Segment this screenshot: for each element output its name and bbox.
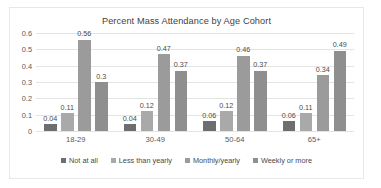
bar-slot: 0.37 bbox=[175, 33, 188, 131]
bar-slot: 0.06 bbox=[203, 33, 216, 131]
y-axis-tick-label: 0.1 bbox=[22, 110, 32, 119]
bar-slot: 0.04 bbox=[44, 33, 57, 131]
legend-item[interactable]: Monthly/yearly bbox=[185, 156, 240, 165]
bar[interactable] bbox=[283, 121, 296, 131]
y-axis-tick-label: 0.6 bbox=[22, 29, 32, 38]
bar-value-label: 0.12 bbox=[219, 101, 233, 110]
bar[interactable] bbox=[141, 111, 154, 131]
legend-swatch-icon bbox=[61, 158, 66, 163]
bar-value-label: 0.04 bbox=[123, 114, 137, 123]
bar[interactable] bbox=[44, 124, 57, 131]
y-axis-tick-label: 0.2 bbox=[22, 94, 32, 103]
bar-slot: 0.37 bbox=[254, 33, 267, 131]
bar[interactable] bbox=[124, 124, 137, 131]
bar-value-label: 0.56 bbox=[77, 29, 91, 38]
bar-slot: 0.47 bbox=[158, 33, 171, 131]
bar-value-label: 0.34 bbox=[316, 65, 330, 74]
x-axis-category-label: 50-64 bbox=[225, 135, 244, 144]
legend-label: Less than yearly bbox=[119, 156, 172, 165]
legend-swatch-icon bbox=[185, 158, 190, 163]
bar-group: 0.040.120.470.3730-49 bbox=[116, 33, 196, 131]
legend-label: Weekly or more bbox=[261, 156, 312, 165]
legend-label: Not at all bbox=[69, 156, 98, 165]
y-axis-tick-label: 0 bbox=[28, 127, 32, 136]
gridline bbox=[36, 131, 354, 132]
bar-value-label: 0.49 bbox=[333, 40, 347, 49]
bar-slot: 0.04 bbox=[124, 33, 137, 131]
legend-swatch-icon bbox=[111, 158, 116, 163]
chart-title: Percent Mass Attendance by Age Cohort bbox=[10, 16, 363, 26]
bar[interactable] bbox=[95, 82, 108, 131]
bar-value-label: 0.11 bbox=[299, 103, 312, 112]
bar-value-label: 0.12 bbox=[140, 101, 154, 110]
bar-value-label: 0.11 bbox=[61, 103, 74, 112]
x-axis-category-label: 30-49 bbox=[146, 135, 165, 144]
bar[interactable] bbox=[78, 40, 91, 131]
bar-slot: 0.11 bbox=[300, 33, 313, 131]
bar-value-label: 0.3 bbox=[96, 72, 106, 81]
bar[interactable] bbox=[300, 113, 313, 131]
x-axis-category-label: 65+ bbox=[308, 135, 321, 144]
x-axis-category-label: 18-29 bbox=[66, 135, 85, 144]
bar[interactable] bbox=[254, 71, 267, 131]
legend-item[interactable]: Less than yearly bbox=[111, 156, 172, 165]
legend-item[interactable]: Not at all bbox=[61, 156, 98, 165]
bar-value-label: 0.06 bbox=[282, 111, 296, 120]
bar-slot: 0.11 bbox=[61, 33, 74, 131]
chart-legend: Not at allLess than yearlyMonthly/yearly… bbox=[10, 156, 363, 165]
bar-slot: 0.56 bbox=[78, 33, 91, 131]
bar[interactable] bbox=[317, 75, 330, 131]
bar[interactable] bbox=[237, 56, 250, 131]
legend-item[interactable]: Weekly or more bbox=[253, 156, 312, 165]
plot-area: 0.60.50.40.30.20.10 0.040.110.560.318-29… bbox=[36, 33, 354, 131]
y-axis-tick-label: 0.4 bbox=[22, 61, 32, 70]
bar[interactable] bbox=[158, 54, 171, 131]
bar-slot: 0.12 bbox=[141, 33, 154, 131]
bar[interactable] bbox=[175, 71, 188, 131]
legend-swatch-icon bbox=[253, 158, 258, 163]
bar-value-label: 0.37 bbox=[253, 60, 267, 69]
bar-value-label: 0.04 bbox=[43, 114, 57, 123]
bar-slot: 0.34 bbox=[317, 33, 330, 131]
y-axis-tick-label: 0.3 bbox=[22, 78, 32, 87]
bar-slot: 0.12 bbox=[220, 33, 233, 131]
bar-value-label: 0.37 bbox=[174, 60, 188, 69]
bar-slot: 0.46 bbox=[237, 33, 250, 131]
bar-group: 0.040.110.560.318-29 bbox=[36, 33, 116, 131]
bar[interactable] bbox=[220, 111, 233, 131]
bar-group: 0.060.120.460.3750-64 bbox=[195, 33, 275, 131]
bar-slot: 0.49 bbox=[334, 33, 347, 131]
bar-slot: 0.3 bbox=[95, 33, 108, 131]
bar[interactable] bbox=[203, 121, 216, 131]
y-axis-tick-label: 0.5 bbox=[22, 45, 32, 54]
legend-label: Monthly/yearly bbox=[193, 156, 240, 165]
bar[interactable] bbox=[61, 113, 74, 131]
bar[interactable] bbox=[334, 51, 347, 131]
bar-slot: 0.06 bbox=[283, 33, 296, 131]
bar-value-label: 0.47 bbox=[157, 44, 171, 53]
bar-group: 0.060.110.340.4965+ bbox=[275, 33, 355, 131]
bar-value-label: 0.46 bbox=[236, 45, 250, 54]
bar-value-label: 0.06 bbox=[202, 111, 216, 120]
chart-container: Percent Mass Attendance by Age Cohort 0.… bbox=[9, 7, 364, 179]
